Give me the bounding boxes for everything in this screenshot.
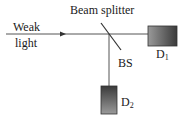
detector-d2 bbox=[101, 86, 117, 114]
input-label-line2: light bbox=[15, 37, 37, 49]
detector-d2-label: D2 bbox=[121, 96, 134, 112]
detector-d1 bbox=[148, 26, 177, 46]
splitter-label: Beam splitter bbox=[70, 4, 134, 16]
input-label-line1: Weak bbox=[13, 21, 40, 33]
d2-sub: 2 bbox=[130, 101, 134, 110]
d1-sub: 1 bbox=[165, 53, 169, 62]
detector-d1-label: D1 bbox=[156, 48, 169, 64]
d1-name: D bbox=[156, 47, 165, 61]
beam-splitter bbox=[101, 23, 121, 50]
arrow-icon bbox=[60, 32, 66, 37]
d2-name: D bbox=[121, 95, 130, 109]
bs-label: BS bbox=[118, 57, 133, 69]
